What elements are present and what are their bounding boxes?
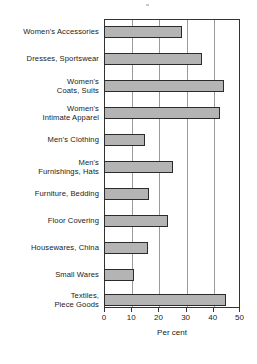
bar-textiles-piece-goods: [104, 294, 226, 306]
category-label: Textiles, Piece Goods: [0, 291, 99, 310]
category-label: Furniture, Bedding: [0, 189, 99, 198]
bar-track: [104, 181, 240, 207]
bar-chart-figure: Women's Accessories Dresses, Sportswear …: [0, 0, 257, 364]
tick-mark-40: [213, 308, 214, 312]
category-label: Dresses, Sportswear: [0, 54, 99, 63]
tick-mark-50: [239, 308, 240, 312]
x-tick-label-10: 10: [116, 313, 146, 322]
bar-track: [104, 262, 240, 288]
bar-row: Small Wares: [0, 262, 257, 288]
bar-track: [104, 154, 240, 180]
bar-womens-intimate-apparel: [104, 107, 220, 119]
tick-mark-10: [131, 308, 132, 312]
bar-womens-accessories: [104, 26, 182, 38]
tick-mark-0: [104, 308, 105, 312]
bar-housewares-china: [104, 242, 148, 254]
bar-furniture-bedding: [104, 188, 149, 200]
bar-mens-clothing: [104, 134, 145, 146]
category-label: Women's Accessories: [0, 27, 99, 36]
bar-row: Men's Clothing: [0, 127, 257, 153]
bar-row: Furniture, Bedding: [0, 181, 257, 207]
bar-track: [104, 235, 240, 261]
x-tick-label-30: 30: [171, 313, 201, 322]
tick-mark-20: [158, 308, 159, 312]
category-label: Women's Intimate Apparel: [0, 104, 99, 123]
category-label: Men's Furnishings, Hats: [0, 158, 99, 177]
bar-track: [104, 100, 240, 126]
bar-row: Dresses, Sportswear: [0, 46, 257, 72]
bar-track: [104, 46, 240, 72]
x-tick-label-40: 40: [198, 313, 228, 322]
category-label: Housewares, China: [0, 243, 99, 252]
bar-track: [104, 19, 240, 45]
bar-floor-covering: [104, 215, 168, 227]
x-axis-ticks: [104, 308, 240, 312]
x-tick-label-50: 50: [225, 313, 255, 322]
bar-track: [104, 127, 240, 153]
bar-row: Women's Accessories: [0, 19, 257, 45]
tick-mark-30: [186, 308, 187, 312]
category-label: Floor Covering: [0, 216, 99, 225]
bar-dresses-sportswear: [104, 53, 202, 65]
bar-row: Women's Coats, Suits: [0, 73, 257, 99]
bar-womens-coats-suits: [104, 80, 224, 92]
bar-track: [104, 208, 240, 234]
category-label: Small Wares: [0, 270, 99, 279]
bar-rows: Women's Accessories Dresses, Sportswear …: [0, 19, 257, 308]
x-tick-label-0: 0: [89, 313, 119, 322]
scan-speck: [146, 4, 149, 6]
bar-small-wares: [104, 269, 134, 281]
category-label: Women's Coats, Suits: [0, 77, 99, 96]
category-label: Men's Clothing: [0, 135, 99, 144]
bar-track: [104, 73, 240, 99]
bar-mens-furnishings-hats: [104, 161, 173, 173]
x-tick-label-20: 20: [143, 313, 173, 322]
bar-row: Housewares, China: [0, 235, 257, 261]
x-axis-title: Per cent: [104, 328, 240, 337]
bar-row: Women's Intimate Apparel: [0, 100, 257, 126]
bar-row: Floor Covering: [0, 208, 257, 234]
bar-row: Men's Furnishings, Hats: [0, 154, 257, 180]
x-axis-tick-labels: 0 10 20 30 40 50: [0, 313, 257, 325]
